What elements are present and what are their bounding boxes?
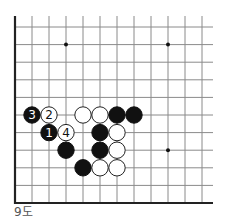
white-stone (92, 160, 108, 176)
black-stone-icon (92, 124, 108, 140)
white-stone (75, 107, 91, 123)
black-stone-icon (109, 107, 125, 123)
white-stone: 2 (41, 107, 57, 123)
white-stone (92, 107, 108, 123)
white-stone: 4 (58, 124, 74, 140)
move-number-label: 4 (62, 126, 70, 140)
white-stone-icon (109, 142, 125, 158)
star-point-icon (64, 43, 68, 47)
black-stone (92, 124, 108, 140)
black-stone (92, 142, 108, 158)
white-stone (109, 142, 125, 158)
black-stone-icon (75, 160, 91, 176)
black-stone: 1 (41, 124, 57, 140)
move-number-label: 1 (45, 126, 53, 140)
white-stone-icon (109, 124, 125, 140)
move-number-label: 3 (28, 108, 36, 122)
white-stone-icon (92, 107, 108, 123)
diagram-caption: 9도 (14, 205, 33, 219)
star-point-icon (166, 148, 170, 152)
black-stone (109, 107, 125, 123)
go-board-diagram: 3214 (0, 0, 226, 221)
black-stone-icon (92, 142, 108, 158)
move-number-label: 2 (45, 108, 53, 122)
white-stone-icon (92, 160, 108, 176)
white-stone-icon (75, 107, 91, 123)
black-stone (58, 142, 74, 158)
white-stone (109, 160, 125, 176)
white-stone (109, 124, 125, 140)
black-stone-icon (58, 142, 74, 158)
black-stone (75, 160, 91, 176)
black-stone: 3 (24, 107, 40, 123)
black-stone (126, 107, 142, 123)
star-point-icon (166, 43, 170, 47)
white-stone-icon (109, 160, 125, 176)
black-stone-icon (126, 107, 142, 123)
